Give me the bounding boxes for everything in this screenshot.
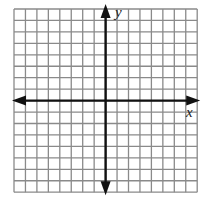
coordinate-plane	[0, 0, 214, 206]
y-axis-down-arrow-icon	[101, 181, 111, 195]
axes	[12, 4, 200, 195]
y-axis-label: y	[115, 5, 122, 20]
x-axis-label: x	[186, 105, 193, 120]
y-axis-up-arrow-icon	[101, 4, 111, 18]
